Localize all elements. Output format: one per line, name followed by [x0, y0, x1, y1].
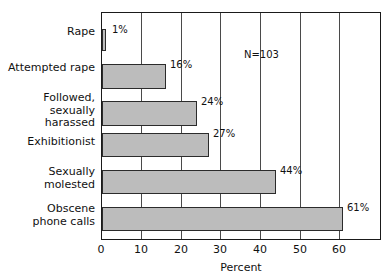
value-label-sexually-molested: 44% — [280, 165, 302, 176]
sample-size-annotation: N=103 — [244, 49, 279, 60]
gridline-40 — [260, 13, 261, 239]
bar-followed — [102, 101, 197, 126]
bar-rape — [102, 29, 106, 51]
gridline-10 — [141, 13, 142, 239]
xtick-30: 30 — [213, 243, 227, 256]
bar-sexually-molested — [102, 170, 276, 194]
bar-obscene-calls — [102, 207, 343, 231]
xtick-0: 0 — [98, 243, 105, 256]
bar-exhibitionist — [102, 133, 209, 157]
xtick-40: 40 — [253, 243, 267, 256]
xtick-60: 60 — [332, 243, 346, 256]
xtick-10: 10 — [134, 243, 148, 256]
value-label-attempted-rape: 16% — [170, 59, 192, 70]
value-label-obscene-calls: 61% — [347, 202, 369, 213]
gridline-20 — [181, 13, 182, 239]
category-label-rape: Rape — [67, 26, 95, 39]
gridline-60 — [339, 13, 340, 239]
x-axis-title: Percent — [101, 261, 381, 274]
value-label-exhibitionist: 27% — [213, 128, 235, 139]
chart-screenshot: Rape Attempted rape Followed, sexually h… — [0, 0, 388, 279]
category-label-exhibitionist: Exhibitionist — [27, 136, 95, 149]
gridline-30 — [220, 13, 221, 239]
category-label-followed: Followed, sexually harassed — [0, 92, 95, 130]
value-label-rape: 1% — [112, 24, 128, 35]
category-label-obscene-calls: Obscene phone calls — [32, 203, 95, 228]
bar-attempted-rape — [102, 64, 166, 89]
value-label-followed: 24% — [201, 96, 223, 107]
xtick-50: 50 — [293, 243, 307, 256]
plot-area — [101, 12, 381, 240]
category-label-attempted-rape: Attempted rape — [8, 62, 95, 75]
xtick-20: 20 — [174, 243, 188, 256]
gridline-50 — [300, 13, 301, 239]
category-label-sexually-molested: Sexually molested — [44, 166, 95, 191]
